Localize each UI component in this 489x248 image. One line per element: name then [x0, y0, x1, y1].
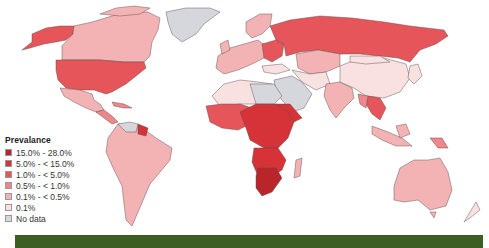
legend-item-0-5-1: 0.5% - < 1.0%	[5, 180, 125, 191]
region-japan-korea	[408, 64, 422, 84]
swatch-0-1-0-5	[5, 193, 12, 200]
region-southeast-asia	[366, 96, 386, 120]
region-tasmania	[430, 212, 436, 218]
region-png	[430, 138, 448, 148]
region-australia	[394, 158, 452, 210]
region-borneo	[396, 124, 410, 138]
legend-label: 15.0% - 28.0%	[16, 148, 72, 158]
legend-item-0-1: 0.1%	[5, 202, 125, 213]
legend-item-1-5: 1.0% - < 5.0%	[5, 169, 125, 180]
region-guyana	[138, 124, 148, 136]
swatch-0-1	[5, 204, 12, 211]
legend-item-no-data: No data	[5, 213, 125, 224]
region-myanmar	[358, 94, 368, 108]
region-scandinavia	[246, 14, 272, 38]
swatch-1-5	[5, 171, 12, 178]
swatch-0-5-1	[5, 182, 12, 189]
legend-title: Prevalance	[5, 135, 125, 145]
swatch-15-28	[5, 149, 12, 156]
footer-band	[15, 235, 483, 248]
region-mexico	[60, 88, 104, 112]
legend-label: 0.1%	[16, 203, 35, 213]
region-turkey	[262, 64, 290, 74]
legend-label: 0.1% - < 0.5%	[16, 192, 70, 202]
region-new-zealand	[464, 202, 480, 222]
legend-item-15-28: 15.0% - 28.0%	[5, 147, 125, 158]
region-central-asia	[296, 50, 340, 74]
region-central-america	[96, 110, 118, 124]
swatch-no-data	[5, 215, 12, 222]
region-greenland	[166, 8, 220, 42]
region-india	[324, 82, 354, 118]
legend-label: 5.0% - < 15.0%	[16, 159, 74, 169]
swatch-5-15	[5, 160, 12, 167]
region-south-africa	[256, 168, 282, 196]
legend-label: 0.5% - < 1.0%	[16, 181, 70, 191]
legend-label: 1.0% - < 5.0%	[16, 170, 70, 180]
legend-label: No data	[16, 214, 46, 224]
region-eastern-europe	[262, 40, 284, 62]
legend-item-5-15: 5.0% - < 15.0%	[5, 158, 125, 169]
legend-item-0-1-0-5: 0.1% - < 0.5%	[5, 191, 125, 202]
region-madagascar	[294, 158, 302, 178]
legend: Prevalance 15.0% - 28.0% 5.0% - < 15.0% …	[5, 135, 125, 224]
region-caribbean	[112, 102, 132, 108]
region-canada	[62, 12, 160, 62]
